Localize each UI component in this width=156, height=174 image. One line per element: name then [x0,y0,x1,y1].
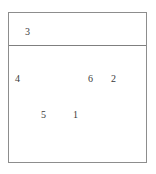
outer-frame: 3 4 6 2 5 1 [8,12,147,163]
region-label-1: 1 [73,109,78,120]
body-region[interactable]: 4 6 2 5 1 [9,46,146,162]
region-label-2: 2 [111,73,116,84]
region-label-6: 6 [88,73,93,84]
region-label-5: 5 [41,109,46,120]
diagram-root: 3 4 6 2 5 1 [0,0,156,174]
region-label-4: 4 [15,73,20,84]
region-label-3: 3 [25,26,30,37]
header-strip-region[interactable]: 3 [9,13,146,46]
